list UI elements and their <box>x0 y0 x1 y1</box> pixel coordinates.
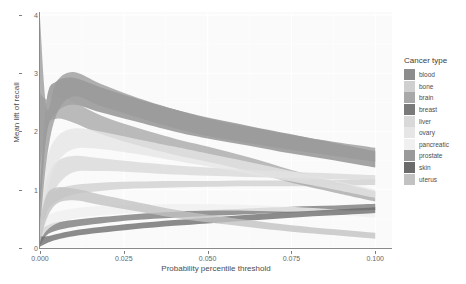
legend-swatch-brain <box>404 92 415 103</box>
legend-label-liver: liver <box>419 118 431 125</box>
plot-panel <box>40 12 392 248</box>
legend-swatch-ovary <box>404 127 415 138</box>
legend-item-brain[interactable]: brain <box>404 92 466 104</box>
legend-swatch-pancreatic <box>404 139 415 150</box>
x-tick-label: 0.050 <box>188 255 228 262</box>
legend-label-pancreatic: pancreatic <box>419 141 449 148</box>
x-tick-mark <box>291 251 292 254</box>
legend-item-blood[interactable]: blood <box>404 69 466 81</box>
y-tick-mark <box>19 248 22 249</box>
legend-label-breast: breast <box>419 106 437 113</box>
y-tick-label: 4 <box>20 11 38 18</box>
x-tick-label: 0.025 <box>104 255 144 262</box>
legend-item-uterus[interactable]: uterus <box>404 173 466 185</box>
legend-swatch-liver <box>404 116 415 127</box>
legend-title: Cancer type <box>404 56 466 65</box>
legend-label-brain: brain <box>419 94 433 101</box>
legend-swatch-breast <box>404 104 415 115</box>
x-tick-mark <box>124 251 125 254</box>
x-axis-title: Probability percentile threshold <box>40 264 392 273</box>
legend-label-ovary: ovary <box>419 129 435 136</box>
x-tick-label: 0.075 <box>271 255 311 262</box>
legend-item-prostate[interactable]: prostate <box>404 150 466 162</box>
chart-root: 01234 Mean lift of recall 0.0000.0250.05… <box>0 0 466 284</box>
legend-item-skin[interactable]: skin <box>404 162 466 174</box>
legend-item-pancreatic[interactable]: pancreatic <box>404 139 466 151</box>
x-tick-label: 0.000 <box>20 255 60 262</box>
y-tick-mark <box>19 190 22 191</box>
legend-label-uterus: uterus <box>419 176 437 183</box>
legend-label-prostate: prostate <box>419 152 443 159</box>
x-axis-line <box>39 248 392 249</box>
legend: Cancer type bloodbonebrainbreastliverova… <box>404 56 466 185</box>
legend-swatch-bone <box>404 81 415 92</box>
legend-swatch-skin <box>404 162 415 173</box>
legend-item-breast[interactable]: breast <box>404 104 466 116</box>
legend-swatch-blood <box>404 69 415 80</box>
y-tick-label: 2 <box>20 128 38 135</box>
legend-label-skin: skin <box>419 164 431 171</box>
legend-label-bone: bone <box>419 83 433 90</box>
legend-items: bloodbonebrainbreastliverovarypancreatic… <box>404 69 466 185</box>
x-tick-mark <box>208 251 209 254</box>
x-tick-mark <box>375 251 376 254</box>
legend-swatch-prostate <box>404 150 415 161</box>
legend-swatch-uterus <box>404 174 415 185</box>
x-tick-label: 0.100 <box>355 255 395 262</box>
y-tick-label: 1 <box>20 186 38 193</box>
legend-item-ovary[interactable]: ovary <box>404 127 466 139</box>
y-tick-label: 3 <box>20 70 38 77</box>
legend-item-liver[interactable]: liver <box>404 115 466 127</box>
y-axis-line <box>39 12 40 249</box>
x-tick-mark <box>40 251 41 254</box>
y-axis-title: Mean lift of recall <box>12 53 21 173</box>
legend-item-bone[interactable]: bone <box>404 81 466 93</box>
legend-label-blood: blood <box>419 71 435 78</box>
plot-svg <box>40 12 392 248</box>
y-tick-mark <box>19 15 22 16</box>
